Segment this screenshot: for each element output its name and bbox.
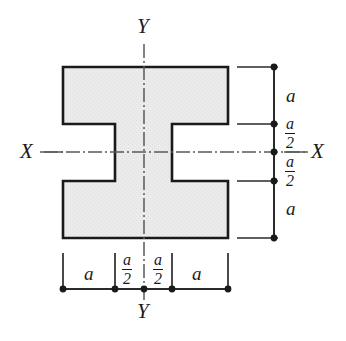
dim-label-v-lower-web: a 2 bbox=[285, 154, 295, 190]
fraction-numerator: a bbox=[122, 252, 132, 268]
fraction-denominator: 2 bbox=[153, 271, 163, 287]
dim-dot-v-center bbox=[271, 149, 278, 156]
fraction-v-lower-web: a 2 bbox=[285, 154, 295, 190]
dim-dot-h-left bbox=[60, 286, 67, 293]
dim-dot-h-web-right bbox=[169, 286, 176, 293]
dim-dot-v-top bbox=[271, 64, 278, 71]
dim-label-h-right-web: a 2 bbox=[153, 252, 163, 288]
fraction-denominator: 2 bbox=[122, 271, 132, 287]
fraction-h-left-web: a 2 bbox=[122, 252, 132, 288]
x-axis-left-label: X bbox=[20, 141, 33, 162]
dim-dot-h-right bbox=[225, 286, 232, 293]
dim-dot-h-web-left bbox=[112, 286, 119, 293]
dim-dot-v-upper-notch bbox=[271, 121, 278, 128]
cross-section-figure: Y Y X X a a 2 a 2 a a a 2 a 2 bbox=[0, 0, 346, 341]
dim-label-h-right-flange: a bbox=[192, 264, 202, 283]
fraction-h-right-web: a 2 bbox=[153, 252, 163, 288]
dim-dot-v-lower-notch bbox=[271, 178, 278, 185]
dim-label-v-bottom-flange: a bbox=[286, 199, 296, 218]
fraction-numerator: a bbox=[153, 252, 163, 268]
dim-label-h-left-flange: a bbox=[84, 264, 94, 283]
dim-label-v-upper-web: a 2 bbox=[285, 116, 295, 152]
fraction-denominator: 2 bbox=[285, 173, 295, 189]
dim-dot-h-center bbox=[141, 286, 148, 293]
fraction-denominator: 2 bbox=[285, 135, 295, 151]
dim-dot-v-bottom bbox=[271, 235, 278, 242]
dim-label-h-left-web: a 2 bbox=[122, 252, 132, 288]
fraction-v-upper-web: a 2 bbox=[285, 116, 295, 152]
fraction-numerator: a bbox=[285, 116, 295, 132]
x-axis-right-label: X bbox=[311, 141, 324, 162]
fraction-numerator: a bbox=[285, 154, 295, 170]
dim-label-v-top-flange: a bbox=[286, 86, 296, 105]
y-axis-bottom-label: Y bbox=[137, 301, 149, 322]
y-axis-top-label: Y bbox=[137, 16, 149, 37]
